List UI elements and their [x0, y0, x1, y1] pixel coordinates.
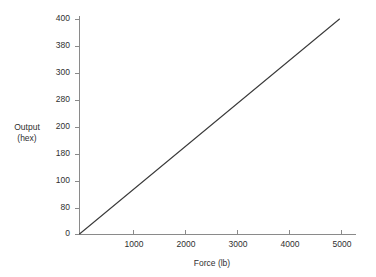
x-tick-label: 3000 — [218, 240, 258, 249]
x-tick-label: 1000 — [114, 240, 154, 249]
y-tick-label: 380 — [30, 41, 70, 50]
y-tick-label: 300 — [30, 68, 70, 77]
y-tick-label: 80 — [30, 203, 70, 212]
x-tick-label: 5000 — [322, 240, 362, 249]
y-tick-label: 180 — [30, 149, 70, 158]
x-axis-title: Force (lb) — [152, 258, 272, 269]
x-tick-label: 4000 — [270, 240, 310, 249]
y-tick-label: 100 — [30, 176, 70, 185]
x-axis-ticks — [134, 230, 342, 235]
y-tick-label: 400 — [30, 14, 70, 23]
y-tick-label: 280 — [30, 95, 70, 104]
y-axis-title-line1: Output — [4, 122, 50, 133]
y-tick-label: 0 — [30, 229, 70, 238]
y-axis-title: Output (hex) — [4, 122, 50, 143]
data-series-line — [80, 19, 340, 234]
y-axis-ticks — [75, 20, 80, 235]
y-axis-title-line2: (hex) — [4, 133, 50, 144]
x-tick-label: 2000 — [166, 240, 206, 249]
chart-figure: 400 380 300 280 200 180 100 80 0 1000 20… — [0, 0, 376, 277]
